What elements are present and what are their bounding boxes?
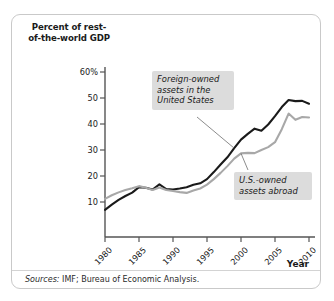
source-note: Sources: IMF; Bureau of Economic Analysi… xyxy=(25,275,199,284)
y-tick-label: 50 xyxy=(57,93,98,103)
y-tick-label: 60% xyxy=(57,67,98,77)
figure-panel: Percent of rest-of-the-world GDP 1020304… xyxy=(11,14,321,289)
y-tick-label: 40 xyxy=(57,119,98,129)
source-prefix: Sources: xyxy=(25,275,60,284)
y-tick-label: 30 xyxy=(57,145,98,155)
annotation-foreign-owned: Foreign-owned assets in the United State… xyxy=(152,71,234,110)
annotation-leader-line xyxy=(241,153,248,170)
line-chart xyxy=(12,15,322,255)
annotation-leader-line xyxy=(197,117,234,148)
y-tick-label: 20 xyxy=(57,171,98,181)
footer-divider xyxy=(12,270,320,271)
y-tick-label: 10 xyxy=(57,197,98,207)
plot-area: 102030405060% 19801985199019952000200520… xyxy=(12,15,322,255)
source-text: IMF; Bureau of Economic Analysis. xyxy=(62,275,199,284)
annotation-us-owned: U.S.-owned assets abroad xyxy=(234,172,312,200)
x-axis-title: Year xyxy=(287,259,309,269)
